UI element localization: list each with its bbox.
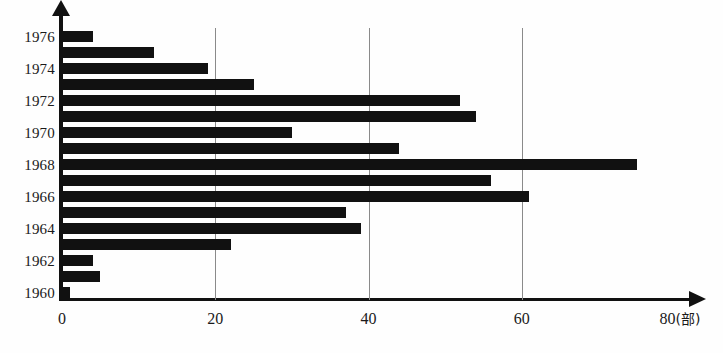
y-tick-1964: 1964 xyxy=(5,222,55,237)
y-tick-1974: 1974 xyxy=(5,62,55,77)
bar-1967 xyxy=(62,175,491,186)
plot-area xyxy=(62,28,675,300)
y-tick-1966: 1966 xyxy=(5,190,55,205)
bar-1968 xyxy=(62,159,637,170)
x-tick-80: 80(部) xyxy=(659,310,700,328)
x-axis-arrow-icon xyxy=(689,291,706,307)
bar-1963 xyxy=(62,239,231,250)
bar-1965 xyxy=(62,207,346,218)
y-tick-1970: 1970 xyxy=(5,126,55,141)
bar-1971 xyxy=(62,111,476,122)
bar-1974 xyxy=(62,63,208,74)
bar-1975 xyxy=(62,47,154,58)
bar-chart: 197619741972197019681966196419621960 020… xyxy=(0,0,723,353)
bar-1962 xyxy=(62,255,93,266)
bar-1969 xyxy=(62,143,399,154)
x-tick-40: 40 xyxy=(361,310,377,328)
y-tick-1972: 1972 xyxy=(5,94,55,109)
y-tick-1968: 1968 xyxy=(5,158,55,173)
x-tick-20: 20 xyxy=(207,310,223,328)
bar-1972 xyxy=(62,95,460,106)
bar-1966 xyxy=(62,191,529,202)
x-tick-60: 60 xyxy=(514,310,530,328)
y-tick-1960: 1960 xyxy=(5,286,55,301)
bar-1964 xyxy=(62,223,361,234)
bar-1970 xyxy=(62,127,292,138)
bar-1961 xyxy=(62,271,100,282)
y-tick-1962: 1962 xyxy=(5,254,55,269)
y-axis-labels: 197619741972197019681966196419621960 xyxy=(0,0,55,353)
y-tick-1976: 1976 xyxy=(5,30,55,45)
bar-1973 xyxy=(62,79,254,90)
bar-1976 xyxy=(62,31,93,42)
y-axis-arrow-icon xyxy=(52,0,70,16)
x-axis-unit-label: (部) xyxy=(675,311,700,327)
bar-1960 xyxy=(62,287,70,298)
x-tick-0: 0 xyxy=(58,310,66,328)
